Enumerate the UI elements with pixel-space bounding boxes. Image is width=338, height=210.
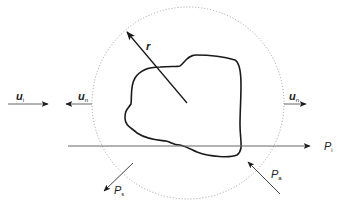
control-surface-circle [92,7,284,199]
label-u-n-left: un [78,90,88,103]
scattering-diagram: ui un un r Pi Ps Pa [0,0,338,210]
scattering-body [125,55,241,157]
label-p-s: Ps [114,184,124,197]
label-r: r [146,40,151,52]
radius-vector-arrow [127,32,187,103]
label-p-a: Pa [271,168,282,181]
label-u-n-right: un [289,90,299,103]
label-p-i: Pi [324,140,333,153]
label-u-i: ui [16,90,24,103]
